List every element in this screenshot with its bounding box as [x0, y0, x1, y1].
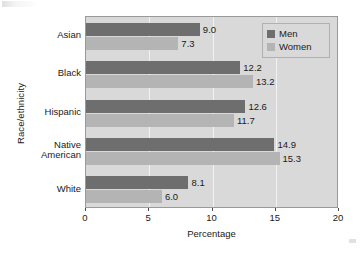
- bar-women-3: [86, 152, 280, 165]
- y-axis-label-4: White: [12, 184, 81, 195]
- x-tick-mark: [275, 208, 276, 211]
- y-axis-label-1: Black: [12, 68, 81, 79]
- bar-men-3: [86, 138, 274, 151]
- bar-value-label: 13.2: [256, 75, 275, 88]
- x-tick-mark: [338, 208, 339, 211]
- bar-men-2: [86, 100, 245, 113]
- x-axis: 05101520: [85, 208, 338, 224]
- x-tick-label-20: 20: [326, 212, 350, 223]
- legend-item-men: Men: [267, 27, 325, 40]
- bar-men-0: [86, 23, 200, 36]
- bar-women-1: [86, 75, 253, 88]
- bar-value-label: 14.9: [277, 138, 296, 151]
- legend-label-men: Men: [279, 29, 297, 39]
- bar-value-label: 11.7: [237, 114, 255, 127]
- x-tick-label-5: 5: [136, 212, 160, 223]
- legend-label-women: Women: [279, 42, 312, 52]
- x-tick-mark: [148, 208, 149, 211]
- bar-men-4: [86, 176, 188, 189]
- x-tick-mark: [212, 208, 213, 211]
- bar-chart: Race/ethnicity AsianBlackHispanicNative …: [0, 0, 361, 253]
- bar-women-4: [86, 190, 162, 203]
- legend-item-women: Women: [267, 40, 325, 53]
- scan-artifact-corner: [349, 239, 356, 243]
- y-axis-label-2: Hispanic: [12, 107, 81, 118]
- bar-value-label: 7.3: [181, 37, 194, 50]
- bar-value-label: 12.2: [243, 61, 262, 74]
- bar-value-label: 15.3: [283, 152, 302, 165]
- bar-value-label: 12.6: [248, 100, 267, 113]
- bar-men-1: [86, 61, 240, 74]
- x-tick-label-0: 0: [73, 212, 97, 223]
- y-axis-label-0: Asian: [12, 30, 81, 41]
- bar-women-2: [86, 114, 234, 127]
- x-tick-label-10: 10: [200, 212, 224, 223]
- y-axis-label-3: Native American: [12, 140, 81, 161]
- x-tick-mark: [85, 208, 86, 211]
- bar-value-label: 6.0: [165, 190, 178, 203]
- scan-artifact: [2, 1, 36, 7]
- chart-legend: Men Women: [262, 23, 330, 58]
- legend-swatch-men-icon: [267, 30, 275, 38]
- bar-women-0: [86, 37, 178, 50]
- legend-swatch-women-icon: [267, 43, 275, 51]
- x-axis-title: Percentage: [85, 228, 338, 239]
- bar-value-label: 9.0: [203, 23, 216, 36]
- x-tick-label-15: 15: [263, 212, 287, 223]
- y-axis-tick-labels: AsianBlackHispanicNative AmericanWhite: [12, 16, 81, 208]
- bar-value-label: 8.1: [191, 176, 204, 189]
